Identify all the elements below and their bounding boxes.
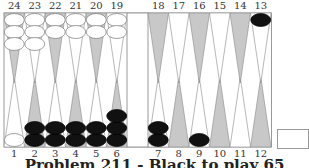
black-checker[interactable]	[25, 122, 45, 135]
black-checker[interactable]	[148, 122, 168, 135]
white-checker[interactable]	[4, 14, 24, 27]
point-label-21: 21	[69, 0, 82, 11]
white-checker[interactable]	[86, 14, 106, 27]
backgammon-board: 242322212019181716151413123456789101112	[0, 0, 309, 168]
point-label-23: 23	[28, 0, 41, 11]
white-checker[interactable]	[4, 134, 24, 147]
black-checker[interactable]	[45, 134, 65, 147]
black-checker[interactable]	[107, 122, 127, 135]
point-label-16: 16	[193, 0, 206, 11]
black-checker[interactable]	[66, 134, 86, 147]
doubling-cube-area	[277, 129, 309, 149]
white-checker[interactable]	[25, 26, 45, 39]
black-checker[interactable]	[25, 134, 45, 147]
point-label-20: 20	[90, 0, 103, 11]
point-label-13: 13	[254, 0, 267, 11]
point-label-22: 22	[49, 0, 62, 11]
white-checker[interactable]	[66, 14, 86, 27]
white-checker[interactable]	[107, 26, 127, 39]
white-checker[interactable]	[86, 26, 106, 39]
point-label-15: 15	[213, 0, 226, 11]
point-label-14: 14	[234, 0, 247, 11]
point-label-24: 24	[8, 0, 21, 11]
white-checker[interactable]	[25, 38, 45, 51]
white-checker[interactable]	[4, 38, 24, 51]
point-label-17: 17	[172, 0, 185, 11]
white-checker[interactable]	[4, 26, 24, 39]
white-checker[interactable]	[107, 14, 127, 27]
black-checker[interactable]	[148, 134, 168, 147]
black-checker[interactable]	[86, 134, 106, 147]
problem-caption: Problem 211 - Black to play 65	[0, 156, 309, 168]
point-label-19: 19	[110, 0, 123, 11]
white-checker[interactable]	[66, 26, 86, 39]
white-checker[interactable]	[45, 26, 65, 39]
black-checker[interactable]	[251, 14, 271, 27]
black-checker[interactable]	[45, 122, 65, 135]
black-checker[interactable]	[107, 110, 127, 123]
point-label-18: 18	[152, 0, 165, 11]
black-checker[interactable]	[66, 122, 86, 135]
black-checker[interactable]	[107, 134, 127, 147]
white-checker[interactable]	[45, 14, 65, 27]
white-checker[interactable]	[25, 14, 45, 27]
black-checker[interactable]	[86, 122, 106, 135]
bar	[127, 13, 148, 147]
black-checker[interactable]	[189, 134, 209, 147]
